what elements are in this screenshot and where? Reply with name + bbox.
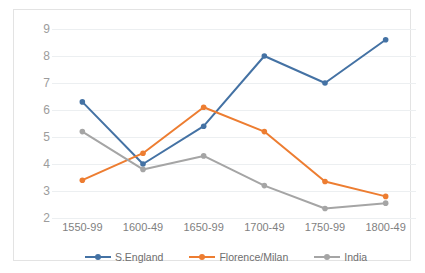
y-axis-tick-label: 3 — [28, 185, 50, 197]
y-axis-tick-label: 6 — [28, 104, 50, 116]
legend-label: India — [344, 251, 367, 263]
y-axis-tick-label: 4 — [28, 158, 50, 170]
x-axis-tick-label: 1700-49 — [244, 221, 284, 233]
line-chart: 23456789 1550-991600-491650-991700-49175… — [0, 0, 425, 273]
legend-swatch-icon — [85, 252, 111, 262]
x-axis-tick-label: 1650-99 — [183, 221, 223, 233]
data-point — [383, 200, 389, 206]
series-2 — [80, 105, 389, 200]
data-point — [201, 105, 207, 111]
y-axis-tick-label: 9 — [28, 23, 50, 35]
data-point — [262, 183, 268, 189]
x-axis-tick-label: 1550-99 — [62, 221, 102, 233]
x-axis-tick-label: 1750-99 — [305, 221, 345, 233]
legend-swatch-icon — [189, 252, 215, 262]
chart-frame: 23456789 1550-991600-491650-991700-49175… — [13, 9, 411, 261]
gridline — [52, 218, 416, 219]
legend-item-2[interactable]: Florence/Milan — [189, 251, 288, 263]
data-point — [322, 179, 328, 185]
data-point — [140, 167, 146, 173]
series-1 — [80, 37, 389, 167]
data-point — [322, 206, 328, 212]
x-axis-tick-label: 1800-49 — [365, 221, 405, 233]
data-point — [140, 150, 146, 156]
legend-marker-icon — [95, 254, 101, 260]
y-axis-tick-label: 5 — [28, 131, 50, 143]
y-axis-tick-label: 2 — [28, 212, 50, 224]
x-axis-tick-labels: 1550-991600-491650-991700-491750-991800-… — [52, 221, 416, 239]
legend-swatch-icon — [314, 252, 340, 262]
data-point — [80, 129, 86, 135]
data-point — [262, 53, 268, 59]
x-axis-tick-label: 1600-49 — [123, 221, 163, 233]
series-3 — [80, 129, 389, 212]
data-point — [383, 37, 389, 43]
data-point — [322, 80, 328, 86]
plot-area — [52, 29, 416, 218]
y-axis-tick-label: 8 — [28, 50, 50, 62]
legend-marker-icon — [199, 254, 205, 260]
data-point — [201, 123, 207, 129]
legend-label: Florence/Milan — [219, 251, 288, 263]
series-line — [82, 107, 385, 196]
data-point — [140, 161, 146, 167]
data-point — [383, 194, 389, 200]
chart-legend: S.EnglandFlorence/MilanIndia — [27, 248, 425, 266]
legend-marker-icon — [324, 254, 330, 260]
legend-label: S.England — [115, 251, 163, 263]
data-point — [201, 153, 207, 159]
series-line — [82, 40, 385, 164]
data-point — [80, 177, 86, 183]
legend-item-3[interactable]: India — [314, 251, 367, 263]
legend-item-1[interactable]: S.England — [85, 251, 163, 263]
y-axis-tick-labels: 23456789 — [26, 29, 50, 218]
series-lines — [52, 29, 416, 218]
series-line — [82, 132, 385, 209]
data-point — [262, 129, 268, 135]
y-axis-tick-label: 7 — [28, 77, 50, 89]
data-point — [80, 99, 86, 105]
